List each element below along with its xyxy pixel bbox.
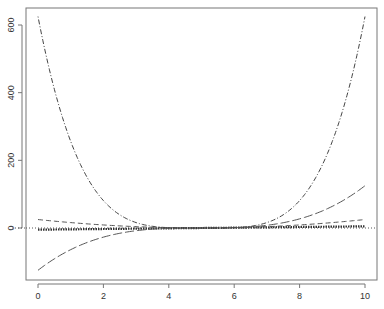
series-line-4 xyxy=(38,17,365,228)
y-tick-label: 0 xyxy=(6,225,16,230)
series-group xyxy=(38,17,365,271)
y-tick-label: 600 xyxy=(6,17,16,32)
x-tick-label: 8 xyxy=(297,291,302,301)
x-tick-label: 6 xyxy=(232,291,237,301)
x-axis: 0246810 xyxy=(35,284,370,301)
x-tick-label: 10 xyxy=(360,291,370,301)
y-tick-label: 200 xyxy=(6,153,16,168)
x-tick-label: 4 xyxy=(166,291,171,301)
chart: 0246810 0200400600 xyxy=(0,0,384,309)
y-axis: 0200400600 xyxy=(6,17,22,230)
y-tick-label: 400 xyxy=(6,85,16,100)
series-line-3 xyxy=(38,186,365,271)
x-tick-label: 0 xyxy=(35,291,40,301)
plot-frame xyxy=(26,8,377,280)
x-tick-label: 2 xyxy=(101,291,106,301)
